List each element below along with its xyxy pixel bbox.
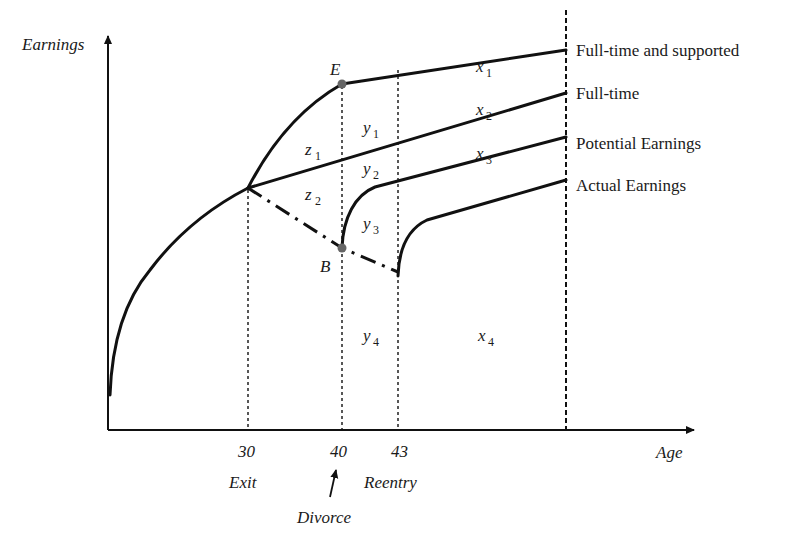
series-label-full-time: Full-time <box>576 84 639 103</box>
region-label-z1: z 1 <box>304 140 321 163</box>
svg-text:4: 4 <box>488 335 494 349</box>
earnings-age-diagram: Earnings Age E B Full-time and supported… <box>0 0 812 548</box>
x-axis-label: Age <box>655 443 683 462</box>
y-axis-label: Earnings <box>21 35 85 54</box>
svg-text:1: 1 <box>315 149 321 163</box>
svg-text:y: y <box>361 118 371 137</box>
actual-earnings-line <box>398 180 566 276</box>
svg-text:x: x <box>477 326 486 345</box>
series-label-actual-earnings: Actual Earnings <box>576 176 686 195</box>
svg-text:x: x <box>475 144 484 163</box>
svg-text:z: z <box>304 140 312 159</box>
series-label-potential-earnings: Potential Earnings <box>576 134 701 153</box>
point-e-label: E <box>329 60 341 79</box>
svg-text:y: y <box>361 326 371 345</box>
svg-text:z: z <box>304 185 312 204</box>
svg-text:3: 3 <box>486 153 492 167</box>
point-e-marker <box>338 80 347 89</box>
region-label-x3: x 3 <box>475 144 492 167</box>
svg-text:1: 1 <box>373 127 379 141</box>
caption-divorce: Divorce <box>296 508 352 527</box>
caption-reentry: Reentry <box>363 473 417 492</box>
point-b-label: B <box>320 257 331 276</box>
region-label-x4: x 4 <box>477 326 494 349</box>
series-label-full-time-and-supported: Full-time and supported <box>576 41 740 60</box>
full-time-and-supported-line <box>248 50 566 188</box>
svg-text:1: 1 <box>486 66 492 80</box>
svg-text:y: y <box>361 214 371 233</box>
svg-text:y: y <box>361 159 371 178</box>
region-label-y1: y 1 <box>361 118 379 141</box>
tick-label-30: 30 <box>237 442 256 461</box>
region-label-y3: y 3 <box>361 214 379 237</box>
tick-label-40: 40 <box>330 442 348 461</box>
svg-text:4: 4 <box>373 335 379 349</box>
initial-earnings-curve <box>110 188 248 395</box>
svg-text:x: x <box>475 100 484 119</box>
divorce-arrow-icon <box>330 470 336 497</box>
region-label-y4: y 4 <box>361 326 379 349</box>
svg-text:2: 2 <box>315 194 321 208</box>
caption-exit: Exit <box>228 473 258 492</box>
svg-text:2: 2 <box>486 109 492 123</box>
region-label-y2: y 2 <box>361 159 379 182</box>
svg-text:2: 2 <box>373 168 379 182</box>
tick-label-43: 43 <box>391 442 408 461</box>
svg-text:x: x <box>475 57 484 76</box>
svg-text:3: 3 <box>373 223 379 237</box>
region-label-z2: z 2 <box>304 185 321 208</box>
full-time-line <box>248 93 566 188</box>
point-b-marker <box>338 244 347 253</box>
